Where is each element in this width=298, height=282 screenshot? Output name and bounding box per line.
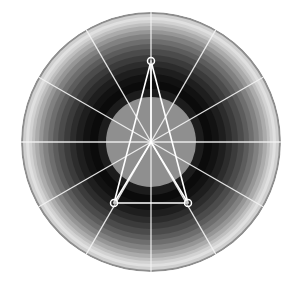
- data-point-marker[interactable]: [111, 200, 118, 207]
- polar-radar-chart: [0, 0, 298, 282]
- chart-canvas: [0, 0, 298, 282]
- data-point-marker[interactable]: [185, 200, 192, 207]
- data-point-marker[interactable]: [148, 58, 155, 65]
